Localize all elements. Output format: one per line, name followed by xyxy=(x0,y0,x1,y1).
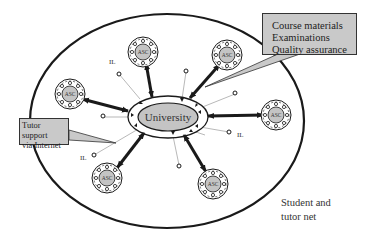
asc-node-top-left: ASC xyxy=(55,79,85,109)
callout-line: Quality assurance xyxy=(272,44,356,56)
asc-label: ASC xyxy=(102,175,113,181)
callout-tutor-support: Tutor support via Internet xyxy=(19,118,69,145)
il-label: IL xyxy=(109,58,116,66)
il-label: IL xyxy=(80,154,87,162)
asc-node-bottom-right: ASC xyxy=(198,169,228,199)
asc-label: ASC xyxy=(208,181,219,187)
net-label-line: tutor net xyxy=(281,210,361,224)
asc-label: ASC xyxy=(271,112,282,118)
callout-line: Examinations xyxy=(272,32,356,44)
callout-left-pointer xyxy=(69,130,116,143)
callout-line: Course materials xyxy=(272,20,356,32)
university-label: University xyxy=(145,111,192,123)
callout-course-materials: Course materials Examinations Quality as… xyxy=(262,13,357,55)
asc-label: ASC xyxy=(138,49,149,55)
student-tutor-net-label: Student and tutor net xyxy=(281,196,361,223)
callout-line: via Internet xyxy=(22,141,68,151)
asc-label: ASC xyxy=(65,91,76,97)
il-label: IL xyxy=(237,131,244,139)
asc-node-right: ASC xyxy=(261,100,291,130)
asc-node-top: ASC xyxy=(128,37,158,67)
asc-node-bottom-left: ASC xyxy=(92,163,122,193)
asc-node-top-right: ASC xyxy=(212,40,242,70)
asc-label: ASC xyxy=(222,52,233,58)
net-label-line: Student and xyxy=(281,196,361,210)
callout-line: Tutor support xyxy=(22,121,68,141)
